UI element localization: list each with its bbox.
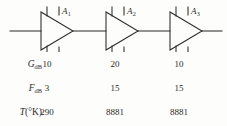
amplifier-label-2-subscript: 2 [133, 10, 136, 17]
amplifier-triangle-1 [41, 12, 73, 50]
amplifier-label-2: A2 [127, 7, 136, 16]
amplifier-triangle-2 [106, 12, 138, 50]
cell-gain-stage3: 10 [156, 52, 202, 76]
cell-noise-figure-stage1: 3 [24, 76, 70, 100]
amplifier-label-1-letter: A [62, 6, 68, 16]
amplifier-label-3-subscript: 3 [197, 10, 200, 17]
cell-gain-stage2: 20 [92, 52, 138, 76]
cell-noise-figure-stage3: 15 [156, 76, 202, 100]
cell-noise-temperature-stage1: 290 [24, 100, 70, 124]
amplifier-label-3: A3 [191, 7, 200, 16]
cell-noise-figure-stage2: 15 [92, 76, 138, 100]
table-row-gain: GdB 10 20 10 [0, 52, 227, 76]
amplifier-label-1-subscript: 1 [68, 10, 71, 17]
amplifier-label-3-letter: A [191, 6, 197, 16]
cell-gain-stage1: 10 [24, 52, 70, 76]
parameter-table: GdB 10 20 10 FdB 3 15 15 T(°K) 290 8881 … [0, 50, 227, 126]
figure-root: A1 A2 A3 GdB 10 20 10 FdB 3 15 15 [0, 0, 227, 126]
cell-noise-temperature-stage3: 8881 [156, 100, 202, 124]
amplifier-label-2-letter: A [127, 6, 133, 16]
amplifier-chain-diagram: A1 A2 A3 [0, 0, 227, 52]
table-row-noise-temperature: T(°K) 290 8881 8881 [0, 100, 227, 124]
cell-noise-temperature-stage2: 8881 [92, 100, 138, 124]
amplifier-triangle-3 [170, 12, 202, 50]
table-row-noise-figure: FdB 3 15 15 [0, 76, 227, 100]
amplifier-label-1: A1 [62, 7, 71, 16]
